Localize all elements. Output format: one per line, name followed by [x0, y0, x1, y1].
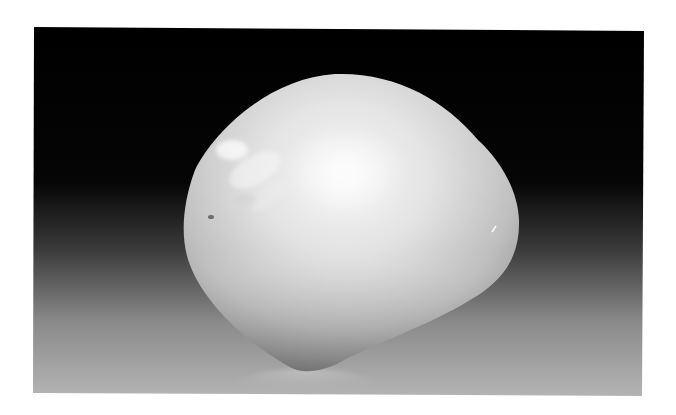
photo-canvas	[0, 0, 676, 415]
pebble-highlight	[285, 125, 405, 215]
pebble-reflection	[235, 369, 375, 401]
pebble-photo	[0, 0, 676, 415]
pebble-speck	[208, 215, 214, 219]
